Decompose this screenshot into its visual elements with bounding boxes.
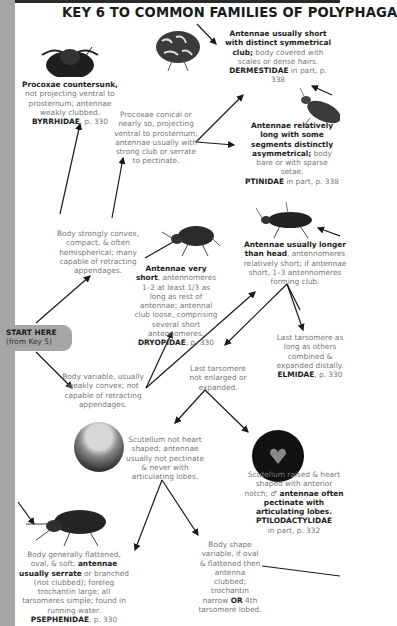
node-last-tarsomere-not-enlarged: Last tarsomere not enlarged or expanded. — [183, 364, 253, 392]
node-psephenidae: Body generally flattened, oval, & soft; … — [18, 550, 130, 624]
node-ptilodactylidae: Scutellum raised & heart shaped with ant… — [244, 470, 344, 535]
byrrhid-beetle-illustration — [38, 37, 102, 77]
node-body-shape-variable: Body shape variable, if oval & flattened… — [198, 540, 262, 614]
node-dermestidae: Antennae usually short with distinct sym… — [224, 29, 332, 85]
dryopid-beetle-illustration — [160, 222, 220, 256]
node-dryopidae: Antennae very short, antennomeres 1–2 at… — [133, 264, 219, 348]
psephenid-beetle-illustration — [24, 506, 114, 546]
node-byrrhidae: Procoxae countersunk, not projecting ven… — [20, 80, 120, 126]
node-last-tarsomere-expanded: Last tarsomere as long as others combine… — [276, 333, 344, 379]
dermestid-beetle-illustration — [152, 27, 212, 71]
node-scutellum-not-heart: Scutellum not heart shaped; antennae usu… — [122, 435, 208, 481]
node-ptinidae: Antennae relatively long with some segme… — [245, 121, 339, 186]
node-procoxae-conical: Procoxae conical or nearly so, projectin… — [114, 110, 198, 166]
node-antennae-longer-than-head: Antennae usually longer than head, anten… — [240, 240, 350, 286]
start-here-tab[interactable]: START HERE (from Key 5) — [0, 325, 72, 351]
node-body-variable: Body variable, usually weakly convex; no… — [60, 372, 146, 409]
scutellum-plain-closeup — [74, 422, 124, 472]
node-body-convex: Body strongly convex, compact, & often h… — [50, 229, 146, 275]
elmid-beetle-illustration — [256, 200, 326, 240]
